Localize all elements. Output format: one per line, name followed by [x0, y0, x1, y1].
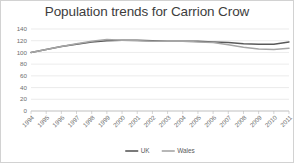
x-axis-tick-label: 1996 [51, 113, 66, 128]
x-axis-tick-label: 1997 [66, 113, 81, 128]
y-axis-tick-label: 100 [17, 49, 28, 56]
y-axis-tick-label: 40 [20, 84, 27, 91]
line-chart-svg: 020406080100120140 199419951996199719981… [1, 25, 295, 165]
legend-label-uk: UK [141, 147, 151, 154]
x-axis-tick-label: 2003 [157, 113, 172, 128]
x-axis-tick-label: 2002 [142, 113, 157, 128]
y-axis-tick-label: 20 [20, 95, 27, 102]
x-axis-tick-label: 2004 [172, 113, 187, 128]
x-axis-tick-marks [31, 111, 289, 114]
x-axis-tick-label: 1999 [96, 113, 111, 128]
x-axis-tick-label: 2010 [263, 113, 278, 128]
x-axis-tick-label: 2011 [279, 113, 294, 128]
x-axis-tick-label: 1998 [81, 113, 96, 128]
y-axis-tick-label: 0 [24, 107, 28, 114]
chart-container: Population trends for Carrion Crow 02040… [0, 0, 294, 163]
plot-area: 020406080100120140 199419951996199719981… [1, 25, 295, 165]
y-axis-tick-label: 140 [17, 25, 28, 32]
y-axis-tick-label: 80 [20, 60, 27, 67]
y-axis-tick-label: 120 [17, 37, 28, 44]
y-axis-tick-label: 60 [20, 72, 27, 79]
x-axis-tick-label: 1995 [36, 113, 51, 128]
x-axis-tick-label: 2008 [233, 113, 248, 128]
chart-title: Population trends for Carrion Crow [1, 4, 293, 19]
x-axis-tick-label: 2006 [203, 113, 218, 128]
x-axis-tick-label: 2007 [218, 113, 233, 128]
y-axis-tick-labels: 020406080100120140 [17, 25, 28, 114]
x-axis-tick-label: 2005 [187, 113, 202, 128]
data-series-group [31, 40, 289, 53]
x-axis-tick-label: 2001 [127, 113, 142, 128]
x-axis-tick-label: 2009 [248, 113, 263, 128]
x-axis-tick-label: 2000 [112, 113, 127, 128]
x-axis-tick-labels: 1994199519961997199819992000200120022003… [21, 113, 294, 128]
x-axis-tick-label: 1994 [21, 113, 36, 128]
legend-label-wales: Wales [177, 147, 195, 154]
chart-legend: UKWales [125, 147, 195, 154]
